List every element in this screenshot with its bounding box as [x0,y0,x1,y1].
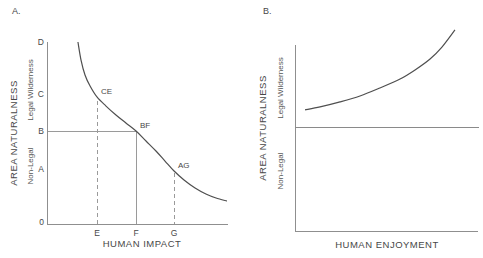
point-label-ce: CE [101,87,112,96]
y-tick-c: C [38,89,44,99]
x-tick-g: G [171,228,178,238]
point-label-bf: BF [140,121,150,130]
panel-b: B. AREA NATURALNESS Legal Wilderness Non… [257,6,479,250]
two-panel-naturalness-figure: A. D C B A 0 E F G CE BF AG [0,0,483,258]
x-tick-f: F [133,228,138,238]
panel-b-label: B. [263,6,272,16]
panel-b-curve [305,30,455,110]
panel-b-zone-legal-wilderness: Legal Wilderness [276,57,285,118]
panel-a-zone-legal-wilderness: Legal Wilderness [26,59,35,120]
panel-a-y-axis-title: AREA NATURALNESS [8,80,19,186]
panel-b-y-axis-title: AREA NATURALNESS [257,75,268,181]
panel-a-label: A. [12,6,21,16]
y-tick-b: B [38,126,44,136]
panel-a-x-axis-title: HUMAN IMPACT [103,238,182,249]
point-label-ag: AG [178,161,190,170]
panel-a-curve [78,42,227,201]
panel-b-zone-non-legal: Non-Legal [276,152,285,189]
panel-a: A. D C B A 0 E F G CE BF AG [8,6,228,249]
x-tick-e: E [94,228,100,238]
panel-a-zone-non-legal: Non-Legal [26,147,35,184]
y-tick-a: A [38,164,44,174]
y-tick-d: D [38,37,44,47]
y-tick-0: 0 [39,217,44,227]
figure-svg: A. D C B A 0 E F G CE BF AG [0,0,483,258]
panel-b-x-axis-title: HUMAN ENJOYMENT [335,239,439,250]
